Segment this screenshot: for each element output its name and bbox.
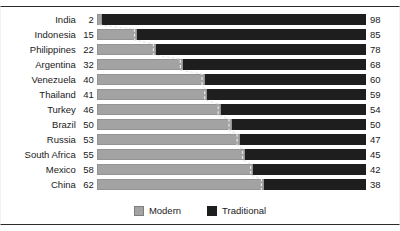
traditional-value-label: 54	[366, 104, 400, 116]
chart-row: India298	[0, 12, 400, 27]
bar-track	[97, 119, 366, 130]
chart-row: South Africa5545	[0, 147, 400, 162]
bar-segment-traditional	[183, 59, 366, 70]
modern-value-label: 55	[76, 149, 97, 161]
bar-segment-modern	[97, 74, 205, 85]
traditional-value-label: 98	[366, 14, 400, 26]
modern-value-label: 15	[76, 29, 97, 41]
bar-segment-traditional	[232, 119, 366, 130]
chart-row: Mexico5842	[0, 162, 400, 177]
bar-segment-traditional	[207, 89, 366, 100]
chart-row: Russia5347	[0, 132, 400, 147]
modern-value-label: 40	[76, 74, 97, 86]
chart-row: Turkey4654	[0, 102, 400, 117]
chart-row: China6238	[0, 177, 400, 192]
bar-segment-modern	[97, 119, 232, 130]
chart-row: Brazil5050	[0, 117, 400, 132]
modern-value-label: 32	[76, 59, 97, 71]
traditional-value-label: 50	[366, 119, 400, 131]
bar-track	[97, 14, 366, 25]
legend-item-traditional[interactable]: Traditional	[207, 205, 266, 217]
category-label: India	[0, 14, 76, 26]
chart-row: Thailand4159	[0, 87, 400, 102]
traditional-value-label: 45	[366, 149, 400, 161]
chart-row: Philippines2278	[0, 42, 400, 57]
category-label: Philippines	[0, 44, 76, 56]
chart-legend: Modern Traditional	[0, 205, 400, 217]
traditional-value-label: 78	[366, 44, 400, 56]
bar-track	[97, 29, 366, 40]
traditional-value-label: 85	[366, 29, 400, 41]
bar-track	[97, 44, 366, 55]
bar-track	[97, 74, 366, 85]
category-label: Argentina	[0, 59, 76, 71]
modern-value-label: 22	[76, 44, 97, 56]
bar-track	[97, 164, 366, 175]
bar-segment-traditional	[137, 29, 366, 40]
modern-value-label: 53	[76, 134, 97, 146]
legend-item-modern[interactable]: Modern	[134, 205, 181, 217]
traditional-value-label: 59	[366, 89, 400, 101]
traditional-value-label: 47	[366, 134, 400, 146]
bar-segment-traditional	[264, 179, 366, 190]
bar-track	[97, 104, 366, 115]
bar-segment-modern	[97, 29, 138, 40]
bar-segment-modern	[97, 59, 183, 70]
bar-segment-traditional	[253, 164, 366, 175]
bar-segment-modern	[97, 89, 208, 100]
chart-row: Argentina3268	[0, 57, 400, 72]
legend-label-traditional: Traditional	[222, 205, 266, 217]
bar-segment-modern	[97, 179, 264, 190]
bar-segment-traditional	[221, 104, 366, 115]
traditional-value-label: 42	[366, 164, 400, 176]
bar-segment-traditional	[102, 14, 366, 25]
bar-track	[97, 179, 366, 190]
bar-track	[97, 59, 366, 70]
category-label: Thailand	[0, 89, 76, 101]
bar-segment-traditional	[205, 74, 366, 85]
chart-rows: India298Indonesia1585Philippines2278Arge…	[0, 12, 400, 192]
category-label: Venezuela	[0, 74, 76, 86]
bar-segment-modern	[97, 134, 240, 145]
modern-value-label: 50	[76, 119, 97, 131]
bar-segment-modern	[97, 164, 254, 175]
traditional-value-label: 60	[366, 74, 400, 86]
bar-segment-modern	[97, 149, 246, 160]
modern-value-label: 62	[76, 179, 97, 191]
bar-track	[97, 134, 366, 145]
chart-row: Venezuela4060	[0, 72, 400, 87]
traditional-value-label: 38	[366, 179, 400, 191]
bar-segment-traditional	[156, 44, 366, 55]
category-label: Turkey	[0, 104, 76, 116]
category-label: Mexico	[0, 164, 76, 176]
category-label: South Africa	[0, 149, 76, 161]
category-label: China	[0, 179, 76, 191]
chart-row: Indonesia1585	[0, 27, 400, 42]
modern-value-label: 58	[76, 164, 97, 176]
modern-swatch-icon	[134, 206, 144, 216]
modern-value-label: 46	[76, 104, 97, 116]
bar-segment-traditional	[240, 134, 366, 145]
traditional-value-label: 68	[366, 59, 400, 71]
bar-track	[97, 149, 366, 160]
bar-track	[97, 89, 366, 100]
category-label: Russia	[0, 134, 76, 146]
legend-label-modern: Modern	[149, 205, 181, 217]
category-label: Indonesia	[0, 29, 76, 41]
bar-segment-modern	[97, 104, 221, 115]
traditional-swatch-icon	[207, 206, 217, 216]
bar-segment-traditional	[245, 149, 366, 160]
stacked-bar-chart: India298Indonesia1585Philippines2278Arge…	[0, 0, 400, 231]
modern-value-label: 2	[76, 14, 97, 26]
modern-value-label: 41	[76, 89, 97, 101]
category-label: Brazil	[0, 119, 76, 131]
bar-segment-modern	[97, 44, 156, 55]
